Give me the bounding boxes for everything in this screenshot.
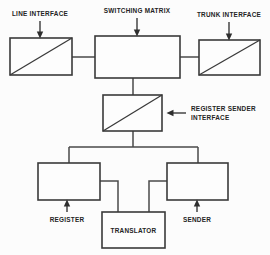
block-line-interface[interactable]: [10, 38, 72, 75]
block-sender[interactable]: [167, 163, 228, 200]
block-layer: TRANSLATOR: [10, 36, 260, 248]
register-label: REGISTER: [50, 216, 85, 223]
connector-register-to-translator: [100, 181, 118, 212]
switching-matrix-box[interactable]: [95, 36, 180, 78]
callout-line-interface: [37, 21, 43, 39]
diagram-canvas: TRANSLATOR: [0, 0, 270, 255]
callout-sender: [194, 200, 200, 213]
register-sender-interface-label-line2: INTERFACE: [191, 114, 230, 121]
block-register-sender-interface[interactable]: [103, 95, 162, 131]
sender-label: SENDER: [183, 216, 211, 223]
register-box[interactable]: [38, 163, 100, 200]
connector-sender-to-translator: [149, 181, 167, 212]
block-diagram: TRANSLATOR: [0, 0, 270, 255]
callout-register: [64, 200, 70, 213]
register-sender-interface-label-line1: REGISTER SENDER: [191, 105, 256, 112]
block-trunk-interface[interactable]: [199, 40, 260, 75]
callout-switching-matrix: [134, 18, 140, 37]
trunk-interface-label: TRUNK INTERFACE: [197, 11, 262, 18]
translator-label: TRANSLATOR: [111, 227, 157, 234]
callout-register-sender-interface: [167, 110, 187, 116]
switching-matrix-label: SWITCHING MATRIX: [104, 7, 171, 14]
block-translator[interactable]: TRANSLATOR: [102, 212, 165, 248]
sender-box[interactable]: [167, 163, 228, 200]
block-register[interactable]: [38, 163, 100, 200]
register-sender-interface-arrow-icon: [167, 110, 174, 116]
block-switching-matrix[interactable]: [95, 36, 180, 78]
line-interface-label: LINE INTERFACE: [12, 10, 69, 17]
callout-trunk-interface: [226, 22, 232, 41]
